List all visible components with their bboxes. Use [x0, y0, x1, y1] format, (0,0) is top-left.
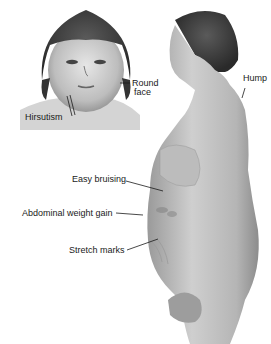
label-hump: Hump — [243, 73, 267, 83]
illustration-drawing — [0, 0, 271, 344]
body-profile — [147, 11, 258, 344]
label-stretch-marks: Stretch marks — [69, 245, 125, 255]
medical-illustration: Round face Hirsutism Hump Easy bruising … — [0, 0, 271, 344]
label-hirsutism: Hirsutism — [25, 112, 63, 122]
label-easy-bruising: Easy bruising — [72, 174, 126, 184]
label-abdominal-weight-gain: Abdominal weight gain — [22, 208, 113, 218]
label-round-face-line2: face — [132, 88, 159, 97]
label-round-face: Round face — [132, 79, 159, 97]
